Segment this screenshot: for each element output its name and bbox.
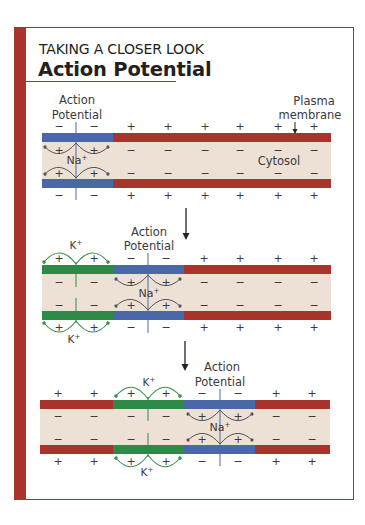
svg-text:+: + <box>309 120 318 133</box>
svg-text:−: − <box>126 321 135 334</box>
svg-text:+: + <box>161 387 170 400</box>
plasma-membrane-label-line1: Plasma <box>293 94 334 108</box>
svg-text:+: + <box>273 189 282 202</box>
svg-text:−: − <box>197 387 206 400</box>
svg-text:−: − <box>163 167 172 180</box>
svg-text:−: − <box>163 144 172 157</box>
svg-text:+: + <box>199 252 208 265</box>
svg-text:−: − <box>273 299 282 312</box>
arrow-down-icon <box>183 233 190 240</box>
svg-text:+: + <box>163 189 172 202</box>
svg-text:+: + <box>309 252 318 265</box>
svg-text:−: − <box>309 144 318 157</box>
svg-text:−: − <box>273 144 282 157</box>
svg-text:−: − <box>309 299 318 312</box>
svg-text:−: − <box>271 433 280 446</box>
svg-text:−: − <box>309 167 318 180</box>
cytosol-region <box>40 408 330 446</box>
svg-text:−: − <box>307 433 316 446</box>
svg-text:+: + <box>200 120 209 133</box>
svg-text:−: − <box>200 144 209 157</box>
svg-text:−: − <box>197 455 206 468</box>
membrane-resting-top <box>40 400 113 409</box>
svg-text:+: + <box>126 276 135 289</box>
svg-text:−: − <box>89 299 98 312</box>
membrane-resting-top <box>184 265 331 274</box>
svg-text:+: + <box>54 167 63 180</box>
svg-text:+: + <box>54 321 63 334</box>
svg-text:−: − <box>89 410 98 423</box>
svg-text:+: + <box>89 252 98 265</box>
svg-text:+: + <box>89 321 98 334</box>
potassium-ion-label: K+ <box>70 239 83 251</box>
svg-text:−: − <box>161 433 170 446</box>
membrane-resting-bottom <box>255 445 330 454</box>
svg-text:+: + <box>89 144 98 157</box>
svg-text:−: − <box>54 299 63 312</box>
svg-text:−: − <box>126 410 135 423</box>
membrane-resting-top <box>255 400 330 409</box>
svg-text:+: + <box>161 455 170 468</box>
svg-text:+: + <box>235 120 244 133</box>
svg-text:−: − <box>235 276 244 289</box>
svg-text:+: + <box>235 321 244 334</box>
panel-3: Action Potential K+ K+ Na+ <box>40 360 330 478</box>
svg-text:+: + <box>199 321 208 334</box>
svg-text:+: + <box>307 455 316 468</box>
outside-charges-bottom: ++ ++ −− ++ <box>53 455 316 468</box>
svg-text:+: + <box>163 120 172 133</box>
svg-text:+: + <box>309 321 318 334</box>
svg-text:−: − <box>126 167 135 180</box>
svg-text:+: + <box>273 252 282 265</box>
membrane-repolarizing-bottom <box>42 311 113 320</box>
outside-charges-top: ++ ++ −− ++ <box>53 387 316 400</box>
svg-text:−: − <box>54 120 63 133</box>
svg-text:+: + <box>235 252 244 265</box>
membrane-repolarizing-top <box>42 265 113 274</box>
svg-text:−: − <box>89 120 98 133</box>
svg-text:−: − <box>309 276 318 289</box>
svg-text:−: − <box>161 252 170 265</box>
svg-text:−: − <box>54 189 63 202</box>
svg-text:+: + <box>53 455 62 468</box>
svg-text:−: − <box>89 189 98 202</box>
svg-text:−: − <box>89 276 98 289</box>
svg-text:+: + <box>273 120 282 133</box>
svg-text:−: − <box>235 299 244 312</box>
outside-charges-top: ++ −− ++ ++ <box>54 252 318 265</box>
membrane-resting-top <box>113 133 331 142</box>
action-potential-label-line2: Potential <box>124 239 174 253</box>
svg-text:+: + <box>126 299 135 312</box>
svg-text:−: − <box>126 252 135 265</box>
svg-text:+: + <box>271 455 280 468</box>
action-potential-label-line1: Action <box>59 93 95 107</box>
svg-text:−: − <box>273 276 282 289</box>
svg-text:−: − <box>233 455 242 468</box>
svg-text:−: − <box>161 410 170 423</box>
action-potential-label-line1: Action <box>131 225 167 239</box>
svg-text:+: + <box>197 433 206 446</box>
svg-text:+: + <box>89 387 98 400</box>
membrane-depolarized-top <box>42 133 113 142</box>
svg-text:+: + <box>126 120 135 133</box>
svg-text:−: − <box>273 167 282 180</box>
svg-text:+: + <box>54 252 63 265</box>
cytosol-region <box>42 273 331 312</box>
outside-charges-bottom: −− ++ ++ ++ <box>54 189 318 202</box>
svg-text:−: − <box>199 276 208 289</box>
svg-text:+: + <box>200 189 209 202</box>
svg-text:+: + <box>235 189 244 202</box>
action-potential-diagram: Action Potential Plasma membrane Cytosol… <box>0 0 365 525</box>
svg-text:+: + <box>233 410 242 423</box>
action-potential-label-line1: Action <box>204 360 240 374</box>
svg-text:+: + <box>233 433 242 446</box>
svg-text:−: − <box>235 167 244 180</box>
outside-charges-bottom: ++ −− ++ ++ <box>54 321 318 334</box>
membrane-depolarized-bottom <box>42 179 113 188</box>
svg-text:+: + <box>161 276 170 289</box>
svg-text:+: + <box>307 387 316 400</box>
svg-text:+: + <box>273 321 282 334</box>
svg-text:+: + <box>53 387 62 400</box>
membrane-resting-bottom <box>40 445 113 454</box>
potassium-ion-label: K+ <box>141 466 154 478</box>
